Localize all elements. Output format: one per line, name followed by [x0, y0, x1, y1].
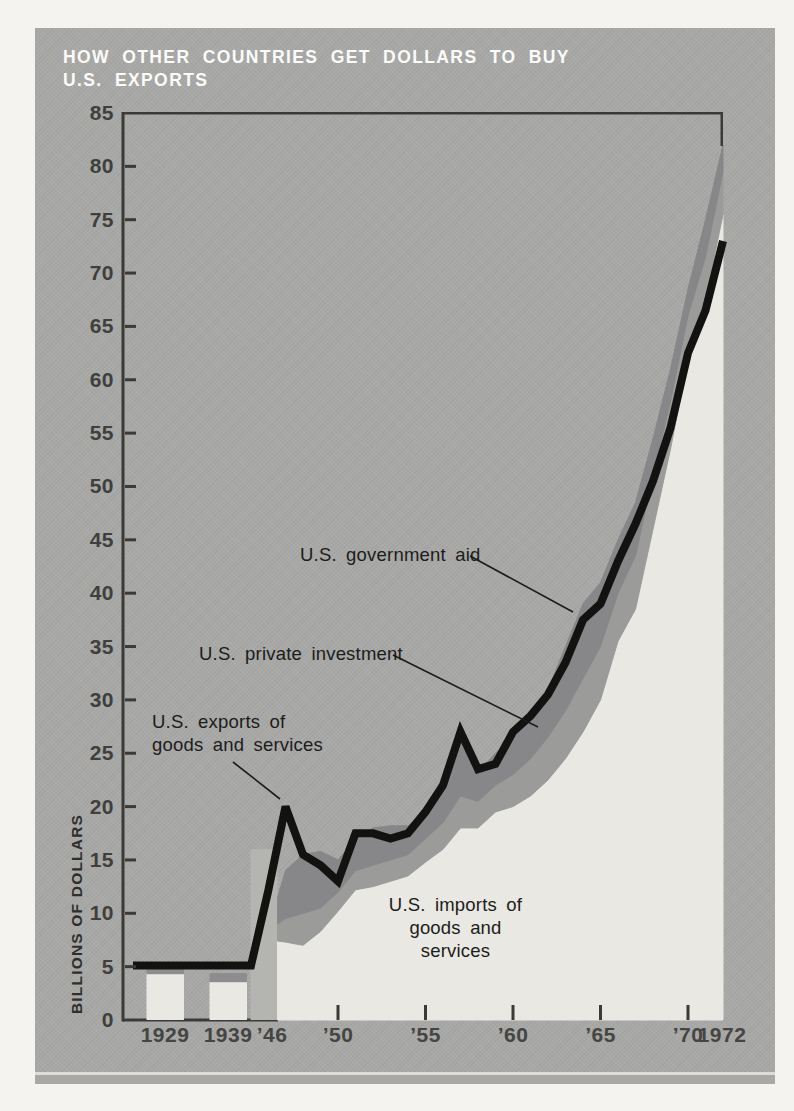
label-imports-line1: U.S. imports of: [378, 893, 533, 916]
label-exports-line2: goods and services: [152, 733, 323, 756]
y-tick-label-75: 75: [62, 208, 114, 232]
y-tick-label-5: 5: [62, 955, 114, 979]
chart-title-line1: HOW OTHER COUNTRIES GET DOLLARS TO BUY: [63, 46, 570, 69]
y-tick-label-65: 65: [62, 314, 114, 338]
y-tick: [125, 858, 136, 861]
y-tick: [125, 218, 136, 221]
callout-line-government-aid: [470, 556, 573, 612]
y-tick: [125, 752, 136, 755]
bar-1939-aid-cap: [210, 973, 248, 982]
y-tick: [125, 485, 136, 488]
plot-frame-top: [123, 112, 723, 115]
label-exports: U.S. exports of goods and services: [152, 710, 323, 756]
y-tick: [125, 965, 136, 968]
y-tick-label-20: 20: [62, 795, 114, 819]
bar-1929-imports: [147, 974, 185, 1020]
y-tick-label-50: 50: [62, 474, 114, 498]
y-axis-line: [122, 112, 125, 1022]
y-tick: [125, 165, 136, 168]
callout-line-private-investment: [393, 655, 538, 727]
y-tick: [125, 378, 136, 381]
y-tick: [125, 805, 136, 808]
y-tick: [125, 432, 136, 435]
chart-title: HOW OTHER COUNTRIES GET DOLLARS TO BUY U…: [63, 46, 570, 92]
y-tick-label-15: 15: [62, 848, 114, 872]
plot-frame-right-stub: [721, 112, 724, 146]
y-tick-label-70: 70: [62, 261, 114, 285]
bar-1939-imports: [210, 982, 248, 1020]
x-tick: [687, 1005, 690, 1020]
x-tick: [337, 1005, 340, 1020]
x-tick-label-55: ’55: [386, 1023, 466, 1047]
y-tick-label-80: 80: [62, 154, 114, 178]
y-tick: [125, 538, 136, 541]
x-tick-label-60: ’60: [473, 1023, 553, 1047]
figure-page: HOW OTHER COUNTRIES GET DOLLARS TO BUY U…: [0, 0, 794, 1111]
x-tick-label-1972: 1972: [682, 1023, 762, 1047]
label-exports-line1: U.S. exports of: [152, 710, 323, 733]
y-tick-label-0: 0: [62, 1008, 114, 1032]
y-tick: [125, 698, 136, 701]
callout-line-exports: [233, 762, 280, 799]
y-tick-label-25: 25: [62, 741, 114, 765]
x-tick-label-50: ’50: [298, 1023, 378, 1047]
y-tick: [125, 912, 136, 915]
y-tick-label-40: 40: [62, 581, 114, 605]
y-tick: [125, 592, 136, 595]
y-tick-label-10: 10: [62, 901, 114, 925]
label-government-aid: U.S. government aid: [300, 543, 480, 566]
y-tick: [125, 325, 136, 328]
x-tick: [599, 1005, 602, 1020]
y-tick: [125, 272, 136, 275]
y-tick-label-85: 85: [62, 101, 114, 125]
x-tick-label-65: ’65: [561, 1023, 641, 1047]
label-imports-line2: goods and services: [378, 916, 533, 962]
x-tick: [424, 1005, 427, 1020]
y-tick-label-45: 45: [62, 528, 114, 552]
y-tick-label-60: 60: [62, 368, 114, 392]
label-imports: U.S. imports of goods and services: [378, 893, 533, 962]
y-tick-label-35: 35: [62, 635, 114, 659]
y-tick: [125, 645, 136, 648]
chart-title-line2: U.S. EXPORTS: [63, 69, 570, 92]
y-tick-label-55: 55: [62, 421, 114, 445]
x-tick: [512, 1005, 515, 1020]
label-private-investment: U.S. private investment: [199, 642, 403, 665]
y-tick-label-30: 30: [62, 688, 114, 712]
